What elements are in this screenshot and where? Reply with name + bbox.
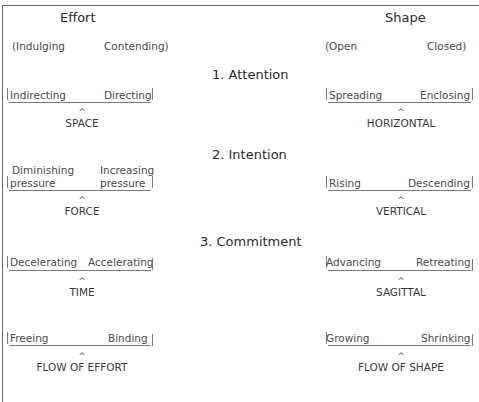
scale-axis-line	[328, 102, 471, 103]
pole-binding: Binding	[108, 332, 148, 344]
pole-directing: Directing	[104, 89, 152, 101]
pole-freeing: Freeing	[10, 332, 49, 344]
pole-advancing: Advancing	[326, 256, 381, 268]
pole-rising: Rising	[329, 177, 361, 189]
scale-tick-right	[472, 88, 473, 100]
shape-pole-open: (Open	[325, 40, 357, 52]
pole-increasing-line2: pressure	[100, 177, 145, 189]
pole-diminishing-line1: Diminishing	[12, 164, 74, 176]
factor-space: SPACE	[42, 117, 122, 129]
factor-time: TIME	[42, 286, 122, 298]
factor-flow-of-effort: FLOW OF EFFORT	[22, 361, 142, 373]
scale-tick-right	[152, 334, 153, 346]
caret-marker: ^	[77, 352, 87, 360]
caret-marker: ^	[396, 108, 406, 116]
effort-column-title: Effort	[60, 10, 96, 25]
scale-tick-left	[326, 176, 327, 188]
factor-sagittal: SAGITTAL	[356, 286, 446, 298]
pole-decelerating: Decelerating	[10, 256, 77, 268]
factor-vertical: VERTICAL	[356, 205, 446, 217]
pole-spreading: Spreading	[329, 89, 382, 101]
pole-retreating: Retreating	[416, 256, 471, 268]
scale-axis-line	[9, 190, 151, 191]
caret-marker: ^	[396, 277, 406, 285]
scale-tick-left	[326, 88, 327, 100]
scale-tick-left	[7, 256, 8, 268]
caret-marker: ^	[77, 277, 87, 285]
pole-accelerating: Accelerating	[88, 256, 154, 268]
pole-descending: Descending	[408, 177, 470, 189]
scale-axis-line	[9, 345, 151, 346]
scale-tick-left	[7, 332, 8, 344]
pole-diminishing-line2: pressure	[10, 177, 55, 189]
shape-column-title: Shape	[385, 10, 426, 25]
pole-enclosing: Enclosing	[420, 89, 470, 101]
scale-tick-right	[472, 334, 473, 346]
scale-tick-left	[7, 88, 8, 100]
section-intention: 2. Intention	[212, 147, 287, 162]
scale-tick-right	[472, 259, 473, 271]
caret-marker: ^	[396, 352, 406, 360]
frame-left-border	[2, 5, 3, 402]
section-commitment: 3. Commitment	[200, 234, 302, 249]
caret-marker: ^	[77, 108, 87, 116]
effort-pole-indulging: (Indulging	[12, 40, 65, 52]
scale-axis-line	[9, 102, 151, 103]
scale-tick-right	[152, 258, 153, 270]
factor-flow-of-shape: FLOW OF SHAPE	[341, 361, 461, 373]
scale-axis-line	[328, 345, 471, 346]
caret-marker: ^	[396, 196, 406, 204]
scale-tick-right	[152, 176, 153, 188]
pole-indirecting: Indirecting	[10, 89, 66, 101]
pole-increasing-line1: Increasing	[100, 164, 154, 176]
scale-tick-right	[472, 176, 473, 188]
caret-marker: ^	[77, 196, 87, 204]
scale-axis-line	[328, 190, 471, 191]
frame-top-border	[2, 5, 479, 6]
scale-tick-left	[7, 176, 8, 188]
pole-growing: Growing	[326, 332, 369, 344]
scale-axis-line	[328, 270, 471, 271]
effort-pole-contending: Contending)	[104, 40, 169, 52]
scale-axis-line	[9, 270, 151, 271]
section-attention: 1. Attention	[212, 67, 289, 82]
factor-horizontal: HORIZONTAL	[356, 117, 446, 129]
pole-shrinking: Shrinking	[421, 332, 471, 344]
factor-force: FORCE	[42, 205, 122, 217]
scale-tick-right	[152, 88, 153, 100]
shape-pole-closed: Closed)	[427, 40, 466, 52]
